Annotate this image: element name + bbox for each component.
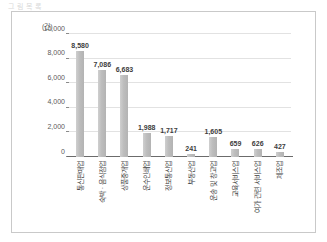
x-axis-tick-label: 부동산업 [188,161,195,185]
bar-group[interactable]: 659교육서비스업 [224,34,246,157]
bar-group[interactable]: 1,605운송 및 창고업 [202,34,224,157]
x-axis-tick-label: 운송 및 창고업 [210,161,217,201]
x-axis-tick-label: 여가 관련 서비스업 [254,161,261,213]
bar-value-label: 8,580 [71,42,89,49]
bar-group[interactable]: 1,988운수인쇄업 [136,34,158,157]
bar-value-label: 6,683 [116,66,134,73]
x-axis-tick-label: 상품중개업 [121,161,128,191]
bar-group[interactable]: 8,580통신판매업 [69,34,91,157]
x-axis-tick-label: 교육서비스업 [232,161,239,197]
bar-group[interactable]: 1,717정보통신업 [158,34,180,157]
y-axis-tick-label: 4,000 [47,98,65,105]
bar-value-label: 1,988 [138,124,156,131]
bar-group[interactable]: 626여가 관련 서비스업 [247,34,269,157]
bar-group[interactable]: 427제조업 [269,34,291,157]
x-axis-tick-label: 정보통신업 [165,161,172,191]
x-axis-tick-label: 통신판매업 [77,161,84,191]
y-axis-tick-label: 6,000 [47,73,65,80]
x-axis-tick-label: 숙박 · 음식점업 [99,161,106,203]
bar-value-label: 7,086 [94,61,112,68]
y-axis-tick-label: 0 [61,147,65,154]
plot-area: 02,0004,0006,0008,00010,0008,580통신판매업7,0… [69,34,291,157]
chart-frame: (건) 02,0004,0006,0008,00010,0008,580통신판매… [11,11,316,233]
page-caption: 그 림 목 록 [8,1,41,11]
bar-group[interactable]: 6,683상품중개업 [113,34,135,157]
y-axis-tick-label: 8,000 [47,49,65,56]
x-axis-tick-label: 제조업 [276,161,283,179]
y-axis-tick-label: 10,000 [44,24,65,31]
x-axis-tick-label: 운수인쇄업 [143,161,150,191]
y-axis-tick-label: 2,000 [47,122,65,129]
bar-group[interactable]: 241부동산업 [180,34,202,157]
bar-group[interactable]: 7,086숙박 · 음식점업 [91,34,113,157]
screenshot-root: 그 림 목 록 (건) 02,0004,0006,0008,00010,0008… [0,0,327,242]
